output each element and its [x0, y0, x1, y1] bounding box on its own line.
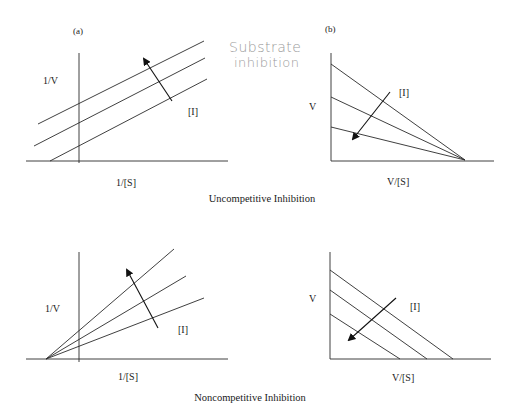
caption-uncompetitive: Uncompetitive Inhibition — [209, 194, 315, 205]
inhibitor-arrow — [127, 270, 158, 328]
line-high-inhibitor — [38, 41, 204, 124]
line-mid-inhibitor — [34, 58, 205, 146]
plot-uncompetitive-lineweaver-burk — [26, 41, 228, 163]
caption-noncompetitive: Noncompetitive Inhibition — [194, 393, 306, 404]
annotation-line-2: inhibition — [229, 55, 301, 71]
inhibitor-label: [I] — [399, 88, 409, 98]
line-low-inhibitor — [331, 64, 465, 160]
y-axis-label: 1/V — [43, 76, 58, 86]
x-axis-label: 1/[S] — [116, 178, 136, 188]
x-axis-label: V/[S] — [387, 177, 409, 187]
plot-uncompetitive-eadie-hofstee — [331, 53, 494, 161]
line-mid-inhibitor — [331, 97, 465, 160]
inhibitor-label: [I] — [410, 302, 420, 312]
inhibitor-label: [I] — [178, 325, 188, 335]
line-high-inhibitor — [46, 249, 174, 359]
panel-tag-b: (b) — [325, 25, 336, 34]
x-axis-label: V/[S] — [392, 373, 414, 383]
line-high-inhibitor — [330, 314, 400, 359]
line-mid-inhibitor — [46, 276, 186, 359]
handwritten-annotation: Substrate inhibition — [229, 39, 301, 71]
annotation-line-1: Substrate — [229, 39, 301, 55]
line-high-inhibitor — [331, 127, 465, 160]
y-axis-label: V — [309, 102, 316, 112]
inhibitor-label: [I] — [188, 107, 198, 117]
y-axis-label: 1/V — [45, 304, 60, 314]
y-axis-label: V — [309, 294, 316, 304]
line-low-inhibitor — [50, 79, 207, 161]
inhibitor-arrow — [144, 59, 172, 101]
inhibitor-arrow — [349, 298, 396, 340]
x-axis-label: 1/[S] — [118, 372, 138, 382]
inhibitor-arrow — [353, 92, 390, 139]
panel-tag-a: (a) — [73, 27, 83, 36]
line-low-inhibitor — [330, 270, 453, 359]
